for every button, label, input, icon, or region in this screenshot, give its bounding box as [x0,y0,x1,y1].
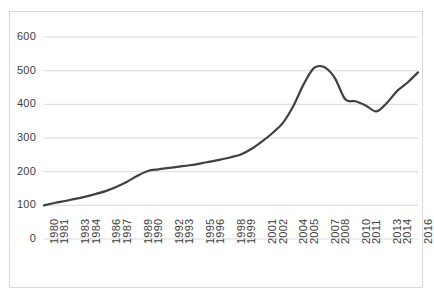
x-axis-label-2016: 2016 [423,219,434,244]
x-axis-label-1987: 1987 [122,219,133,244]
y-axis-label-400: 400 [6,98,36,109]
x-axis-label-1990: 1990 [153,219,164,244]
x-axis-label-1984: 1984 [91,219,102,244]
line-series-1 [44,66,418,205]
y-axis-label-500: 500 [6,65,36,76]
x-axis-label-2014: 2014 [402,219,413,244]
y-axis-label-0: 0 [6,233,36,244]
x-axis-label-2002: 2002 [278,219,289,244]
x-axis-label-1981: 1981 [59,219,70,244]
y-axis-label-600: 600 [6,31,36,42]
x-axis-label-1999: 1999 [246,219,257,244]
y-axis-label-100: 100 [6,199,36,210]
y-axis-label-300: 300 [6,132,36,143]
data-series-group [44,66,418,205]
x-axis-label-1996: 1996 [215,219,226,244]
x-axis-label-2011: 2011 [371,220,382,244]
chart-canvas [0,0,434,299]
x-axis-label-2008: 2008 [340,219,351,244]
x-axis-label-1993: 1993 [184,219,195,244]
chart-container: 6005004003002001000 19801981198319841986… [0,0,434,299]
y-axis-label-200: 200 [6,166,36,177]
gridlines [44,37,418,239]
x-axis-label-2005: 2005 [309,219,320,244]
